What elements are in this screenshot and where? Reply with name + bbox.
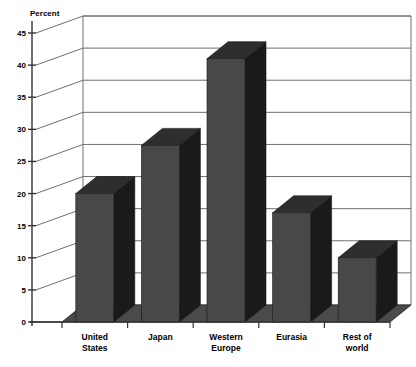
y-tick-label-30: 30 bbox=[17, 125, 26, 134]
y-tick-label-5: 5 bbox=[22, 286, 27, 295]
bar-front-face bbox=[207, 59, 245, 322]
chart-canvas: 051015202530354045 UnitedStatesJapanWest… bbox=[0, 0, 416, 367]
bar-3 bbox=[273, 196, 332, 322]
bar-front-face bbox=[273, 213, 311, 322]
y-tick-label-0: 0 bbox=[22, 318, 27, 327]
y-tick-label-10: 10 bbox=[17, 254, 26, 263]
y-tick-label-45: 45 bbox=[17, 29, 26, 38]
x-category-label-1: Japan bbox=[148, 332, 173, 342]
bar-side-face bbox=[311, 196, 332, 322]
bar-front-face bbox=[338, 258, 376, 322]
x-category-label-4: Rest ofworld bbox=[343, 332, 372, 353]
y-tick-label-25: 25 bbox=[17, 157, 26, 166]
bar-2 bbox=[207, 42, 266, 322]
y-tick-label-35: 35 bbox=[17, 93, 26, 102]
y-tick-label-40: 40 bbox=[17, 61, 26, 70]
bar-chart: 051015202530354045 UnitedStatesJapanWest… bbox=[0, 0, 416, 367]
bar-1 bbox=[141, 128, 200, 322]
x-category-label-0: UnitedStates bbox=[82, 332, 108, 353]
bar-side-face bbox=[245, 42, 266, 322]
bar-4 bbox=[338, 241, 397, 322]
x-category-label-3: Eurasia bbox=[276, 332, 307, 342]
bar-side-face bbox=[114, 177, 135, 322]
bar-side-face bbox=[179, 128, 200, 322]
bar-front-face bbox=[76, 194, 114, 322]
bar-0 bbox=[76, 177, 135, 322]
bar-front-face bbox=[141, 145, 179, 322]
y-tick-label-15: 15 bbox=[17, 222, 26, 231]
y-axis-title: Percent bbox=[30, 9, 60, 18]
y-tick-label-20: 20 bbox=[17, 190, 26, 199]
x-category-label-2: WesternEurope bbox=[209, 332, 242, 353]
